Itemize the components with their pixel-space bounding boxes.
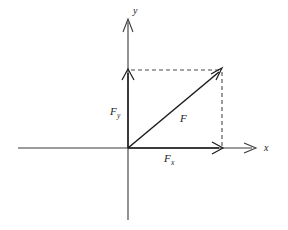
force-x-label: F [163, 152, 171, 164]
resultant-force-shaft [128, 72, 219, 148]
force-x-label-subscript: x [170, 158, 175, 167]
force-x-vector [128, 142, 223, 154]
force-y-label-subscript: y [116, 111, 121, 120]
vector-diagram-figure: x y F F x F y [0, 0, 288, 230]
resultant-force-label: F [179, 112, 187, 124]
force-x-label-group: F x [163, 152, 175, 167]
force-y-label-group: F y [109, 105, 121, 120]
force-y-vector [122, 69, 134, 148]
resultant-force-vector [128, 68, 222, 148]
y-axis-label: y [132, 5, 138, 16]
x-axis-label: x [263, 142, 269, 153]
vector-diagram-canvas: x y F F x F y [0, 0, 288, 230]
force-y-label: F [109, 105, 117, 117]
